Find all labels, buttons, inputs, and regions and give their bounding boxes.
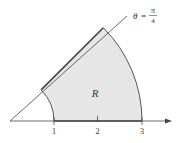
fraction-denominator: 4 (151, 17, 155, 25)
theta-label: θ (133, 11, 138, 21)
tick-label-1: 1 (52, 127, 56, 136)
fraction-numerator: π (151, 6, 155, 15)
x-axis-arrow-icon (165, 119, 172, 124)
tick-label-2: 2 (96, 127, 100, 136)
equals-sign: = (141, 11, 146, 21)
tick-label-3: 3 (140, 127, 144, 136)
polar-region-diagram: 1 2 3 R θ = π 4 (0, 0, 178, 143)
region-label: R (91, 87, 99, 99)
